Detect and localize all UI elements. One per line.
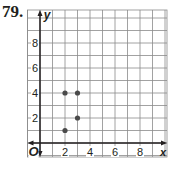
y-tick-label: 6: [32, 62, 38, 74]
x-tick-label: 2: [62, 146, 68, 158]
x-axis-label: x: [159, 146, 167, 158]
data-point: [62, 128, 67, 133]
coordinate-plane: 24682468xyO: [0, 0, 170, 170]
y-tick-label: 8: [32, 37, 38, 49]
y-tick-label: 4: [32, 87, 38, 99]
grid-border: [28, 10, 168, 157]
data-point: [75, 115, 80, 120]
x-tick-label: 6: [112, 146, 118, 158]
origin-label: O: [28, 144, 38, 159]
y-tick-label: 2: [32, 112, 38, 124]
y-axis-arrow-up-icon: [38, 10, 43, 16]
x-tick-label: 8: [137, 146, 143, 158]
y-axis-label: y: [43, 8, 52, 22]
data-point: [75, 90, 80, 95]
data-point: [62, 90, 67, 95]
x-tick-label: 4: [87, 146, 93, 158]
x-axis-arrow-right-icon: [161, 141, 167, 146]
